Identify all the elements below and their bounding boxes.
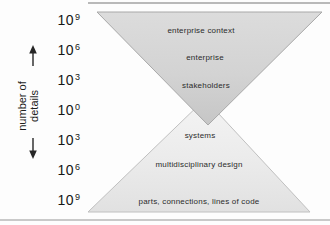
triangles-graphic — [0, 0, 330, 225]
level-label-stakeholders: stakeholders — [182, 81, 230, 90]
y-axis-tick: 100 — [57, 102, 80, 118]
level-label-multidisciplinary-design: multidisciplinary design — [155, 160, 242, 169]
level-label-systems: systems — [185, 131, 216, 140]
y-axis-title-line1: number of — [16, 81, 28, 131]
level-label-enterprise: enterprise — [186, 53, 224, 62]
y-axis-title: number of details — [16, 81, 40, 131]
level-label-parts-connections-code: parts, connections, lines of code — [139, 197, 260, 206]
hourglass-diagram: 109 106 103 100 103 106 109 number of de… — [0, 0, 330, 225]
down-arrow-icon — [27, 137, 39, 159]
y-axis-tick: 109 — [57, 192, 80, 208]
up-arrow-icon — [27, 45, 39, 67]
y-axis-tick: 106 — [57, 162, 80, 178]
y-axis-tick: 109 — [57, 12, 80, 28]
level-label-enterprise-context: enterprise context — [167, 26, 234, 35]
y-axis-tick: 103 — [57, 72, 80, 88]
y-axis-title-line2: details — [28, 81, 40, 131]
y-axis-tick: 103 — [57, 132, 80, 148]
y-axis-tick: 106 — [57, 42, 80, 58]
